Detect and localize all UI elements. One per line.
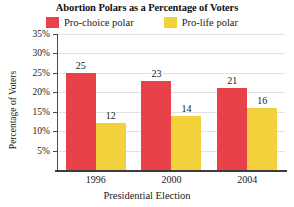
plot-area: 5%10%15%20%25%30%35% 251223142116 199620… <box>57 34 285 170</box>
bars-layer: 251223142116 <box>58 34 285 170</box>
bar-value-label: 23 <box>151 68 161 79</box>
legend-item-pro-life: Pro-life polar <box>164 17 238 28</box>
bar-group: 2512 <box>58 34 134 170</box>
bar-item: 23 <box>141 34 171 170</box>
y-axis-tick-label: 5% <box>37 146 50 156</box>
bar-value-label: 21 <box>227 75 237 86</box>
legend-item-pro-choice: Pro-choice polar <box>46 17 134 28</box>
bar-value-label: 25 <box>76 60 86 71</box>
bar-pro-choice <box>141 81 171 170</box>
bar-item: 16 <box>247 34 277 170</box>
legend-swatch-pro-life <box>164 17 177 28</box>
bar-item: 14 <box>171 34 201 170</box>
bar-item: 12 <box>96 34 126 170</box>
bar-item: 21 <box>217 34 247 170</box>
bar-pro-choice <box>217 88 247 170</box>
chart-legend: Pro-choice polar Pro-life polar <box>46 17 280 28</box>
x-axis-tick-label: 2004 <box>237 174 257 185</box>
bar-pro-life <box>247 108 277 170</box>
x-axis-tick-label: 2000 <box>162 174 182 185</box>
y-axis-tick-label: 20% <box>33 87 50 97</box>
legend-label-pro-choice: Pro-choice polar <box>64 17 134 28</box>
y-axis-title: Percentage of Voters <box>8 50 18 170</box>
y-axis-tick-label: 35% <box>33 29 50 39</box>
legend-swatch-pro-choice <box>46 17 59 28</box>
chart-title: Abortion Polars as a Percentage of Voter… <box>0 2 294 13</box>
legend-label-pro-life: Pro-life polar <box>182 17 238 28</box>
bar-group: 2314 <box>134 34 210 170</box>
y-axis-tick-label: 10% <box>33 126 50 136</box>
bar-item: 25 <box>66 34 96 170</box>
bar-pro-life <box>171 116 201 170</box>
bar-chart: Abortion Polars as a Percentage of Voter… <box>0 0 294 207</box>
y-axis-tick-label: 15% <box>33 107 50 117</box>
x-axis-line <box>55 170 287 172</box>
y-axis-tick-label: 30% <box>33 48 50 58</box>
x-axis-title: Presidential Election <box>0 190 294 201</box>
bar-pro-choice <box>66 73 96 170</box>
bar-value-label: 16 <box>257 95 267 106</box>
bar-pro-life <box>96 123 126 170</box>
y-axis-tick-label: 25% <box>33 68 50 78</box>
bar-group: 2116 <box>209 34 285 170</box>
x-axis-tick-label: 1996 <box>86 174 106 185</box>
bar-value-label: 12 <box>106 110 116 121</box>
bar-value-label: 14 <box>181 103 191 114</box>
